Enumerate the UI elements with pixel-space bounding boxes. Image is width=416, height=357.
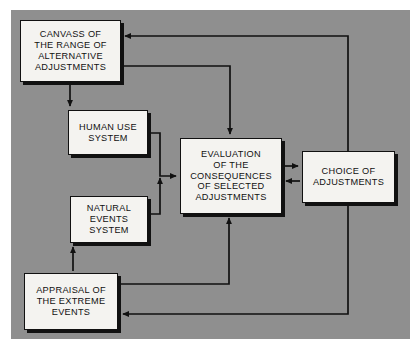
node-evaluation-label: EVALUATIONOF THECONSEQUENCESOF SELECTEDA… [187, 149, 275, 203]
connector-human-to-evaluation [150, 133, 176, 176]
node-natural-label: NATURALEVENTSSYSTEM [84, 203, 134, 236]
connector-natural-to-evaluation [150, 178, 160, 214]
diagram-stage: CANVASS OFTHE RANGE OFALTERNATIVEADJUSTM… [0, 0, 416, 357]
node-human-use-system[interactable]: HUMAN USESYSTEM [68, 110, 148, 155]
node-human-label: HUMAN USESYSTEM [76, 122, 140, 144]
connector-choice-to-appraisal [123, 203, 348, 314]
node-canvass-label: CANVASS OFTHE RANGE OFALTERNATIVEADJUSTM… [31, 29, 110, 72]
node-canvass-of-the-range-of-alternative-adjustments[interactable]: CANVASS OFTHE RANGE OFALTERNATIVEADJUSTM… [20, 20, 121, 82]
node-choice-label: CHOICE OFADJUSTMENTS [310, 166, 387, 188]
node-appraisal-label: APPRAISAL OFTHE EXTREMEEVENTS [33, 285, 109, 318]
node-natural-events-system[interactable]: NATURALEVENTSSYSTEM [70, 196, 148, 243]
node-evaluation-of-the-consequences-of-selected-adjustments[interactable]: EVALUATIONOF THECONSEQUENCESOF SELECTEDA… [180, 138, 282, 214]
node-appraisal-of-the-extreme-events[interactable]: APPRAISAL OFTHE EXTREMEEVENTS [24, 273, 118, 330]
node-choice-of-adjustments[interactable]: CHOICE OFADJUSTMENTS [302, 151, 395, 203]
